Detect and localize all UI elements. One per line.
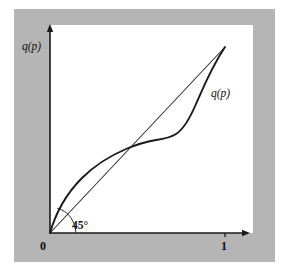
x-tick-label-one: 1 (221, 240, 227, 252)
curve-label: q(p) (211, 88, 230, 100)
y-axis-label: q(p) (22, 41, 41, 53)
x-tick-label-zero: 0 (40, 240, 46, 252)
diagonal-reference-line (50, 47, 225, 233)
angle-label: 45° (72, 220, 88, 232)
plot-graphics (0, 0, 290, 277)
y-axis (47, 24, 53, 233)
figure-container: q(p) q(p) 45° 0 1 (0, 0, 290, 277)
